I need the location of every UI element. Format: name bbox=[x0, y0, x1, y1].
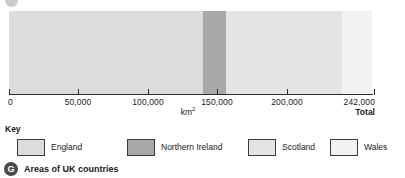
x-axis-tick-mark bbox=[9, 89, 10, 95]
x-axis-tick-label: 150,000 bbox=[201, 97, 232, 108]
total-label: Total bbox=[355, 107, 375, 118]
axis-unit-exponent: 2 bbox=[192, 106, 195, 112]
x-axis-tick-mark bbox=[374, 89, 375, 95]
key-label: Scotland bbox=[282, 142, 315, 153]
bar-segment-england bbox=[9, 11, 203, 94]
x-axis-tick-label: 100,000 bbox=[132, 97, 163, 108]
key-item-wales: Wales bbox=[330, 136, 387, 158]
stacked-bar bbox=[9, 11, 372, 94]
x-axis-tick-label: 0 bbox=[8, 97, 13, 108]
caption-text: Areas of UK countries bbox=[24, 163, 119, 175]
axis-unit-base: km bbox=[181, 107, 192, 117]
key-label: England bbox=[51, 142, 82, 153]
key-swatch-england bbox=[17, 139, 45, 156]
x-axis-line bbox=[9, 94, 373, 95]
key-label: Northern Ireland bbox=[161, 142, 222, 153]
key-swatch-northern-ireland bbox=[127, 139, 155, 156]
bar-segment-wales bbox=[342, 11, 372, 94]
caption: G Areas of UK countries bbox=[4, 162, 119, 176]
x-axis-tick-mark bbox=[148, 89, 149, 95]
key-legend: EnglandNorthern IrelandScotlandWales bbox=[5, 136, 403, 158]
x-axis-tick-mark bbox=[287, 89, 288, 95]
stacked-bar-chart: 050,000100,000150,000200,000242,000 km2 … bbox=[0, 0, 405, 120]
key-title: Key bbox=[5, 124, 21, 135]
bar-segment-northern-ireland bbox=[203, 11, 226, 94]
key-swatch-wales bbox=[330, 139, 358, 156]
bar-segment-scotland bbox=[226, 11, 342, 94]
caption-badge-icon: G bbox=[4, 162, 18, 176]
axis-unit-label: km2 bbox=[181, 107, 196, 118]
key-item-northern-ireland: Northern Ireland bbox=[127, 136, 222, 158]
key-swatch-scotland bbox=[248, 139, 276, 156]
key-label: Wales bbox=[364, 142, 387, 153]
x-axis-tick-label: 50,000 bbox=[65, 97, 92, 108]
key-item-scotland: Scotland bbox=[248, 136, 315, 158]
x-axis-tick-mark bbox=[217, 89, 218, 95]
key-item-england: England bbox=[17, 136, 82, 158]
x-axis-tick-mark bbox=[78, 89, 79, 95]
x-axis-tick-label: 200,000 bbox=[271, 97, 302, 108]
